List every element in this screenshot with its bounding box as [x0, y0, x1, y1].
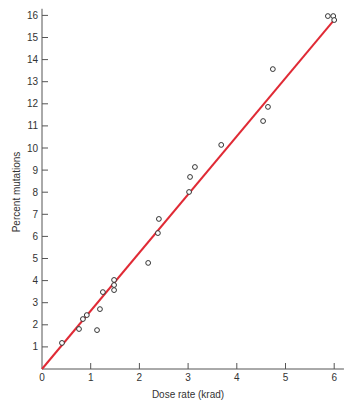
y-tick-label: 5	[32, 253, 38, 264]
y-tick-label: 2	[32, 319, 38, 330]
data-point	[156, 217, 161, 222]
y-tick-label: 6	[32, 231, 38, 242]
data-point	[112, 278, 117, 283]
y-tick-label: 4	[32, 275, 38, 286]
y-tick-label: 7	[32, 209, 38, 220]
data-point	[95, 328, 100, 333]
data-point	[332, 18, 337, 23]
chart-container: 012345612345678910111213141516 Dose rate…	[0, 0, 353, 404]
x-tick-label: 4	[234, 372, 240, 383]
data-point	[112, 288, 117, 293]
data-point	[98, 307, 103, 312]
data-point	[77, 327, 82, 332]
data-point	[325, 14, 330, 19]
x-tick-label: 5	[283, 372, 289, 383]
data-point	[81, 317, 86, 322]
data-point	[266, 104, 271, 109]
data-point	[219, 143, 224, 148]
y-tick-label: 13	[27, 76, 39, 87]
data-point	[270, 67, 275, 72]
y-tick-label: 10	[27, 143, 39, 154]
data-point	[100, 290, 105, 295]
data-point	[187, 190, 192, 195]
y-tick-label: 8	[32, 187, 38, 198]
x-tick-label: 6	[331, 372, 337, 383]
y-tick-label: 1	[32, 341, 38, 352]
y-tick-label: 12	[27, 98, 39, 109]
y-tick-label: 16	[27, 10, 39, 21]
data-points	[60, 14, 337, 346]
data-point	[188, 175, 193, 180]
data-point	[193, 165, 198, 170]
data-point	[112, 283, 117, 288]
data-point	[146, 261, 151, 266]
x-tick-label: 1	[88, 372, 94, 383]
x-tick-label: 0	[39, 372, 45, 383]
y-tick-label: 11	[28, 120, 39, 131]
data-point	[84, 313, 89, 318]
x-tick-label: 3	[185, 372, 191, 383]
data-point	[60, 341, 65, 346]
x-axis-title: Dose rate (krad)	[152, 389, 224, 400]
y-tick-label: 15	[27, 32, 39, 43]
data-point	[156, 231, 161, 236]
data-point	[261, 119, 266, 124]
y-tick-label: 14	[27, 54, 39, 65]
x-tick-label: 2	[137, 372, 143, 383]
y-axis-title: Percent mutations	[11, 152, 22, 233]
y-tick-label: 3	[32, 297, 38, 308]
scatter-plot: 012345612345678910111213141516 Dose rate…	[0, 0, 353, 404]
y-tick-label: 9	[32, 165, 38, 176]
